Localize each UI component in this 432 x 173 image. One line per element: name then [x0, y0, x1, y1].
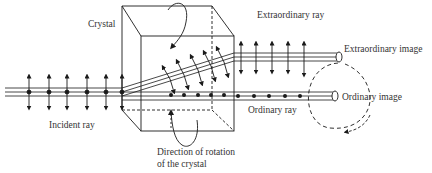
label-rotation-line1: Direction of rotation — [157, 147, 235, 157]
ordinary-image-end — [332, 91, 338, 101]
birefringence-diagram: Crystal Extraordinary ray Extraordinary … — [0, 0, 432, 173]
label-extraordinary-ray: Extraordinary ray — [257, 10, 325, 20]
ordinary-polarization-dots — [169, 93, 302, 98]
extraordinary-polarization-markers-outside — [241, 43, 304, 75]
hidden-edges — [122, 6, 234, 131]
rotation-arrow-bottom-icon — [171, 112, 198, 146]
orbit-direction-arrow-icon — [346, 115, 370, 132]
label-incident-ray: Incident ray — [49, 120, 95, 130]
extraordinary-ray — [122, 53, 338, 96]
extraordinary-image-end — [336, 52, 342, 62]
label-rotation-line2: of the crystal — [157, 159, 207, 169]
label-extraordinary-image: Extraordinary image — [344, 44, 422, 54]
label-crystal: Crystal — [88, 19, 116, 29]
crystal-box — [122, 6, 234, 131]
ordinary-ray — [122, 92, 334, 100]
label-ordinary-image: Ordinary image — [342, 92, 402, 102]
rotation-arrow-top-icon — [168, 3, 187, 47]
label-ordinary-ray: Ordinary ray — [248, 105, 297, 115]
extraordinary-polarization-markers-inside — [163, 48, 228, 92]
